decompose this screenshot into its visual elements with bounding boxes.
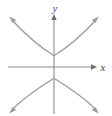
upper-right-branch-arrowhead-icon — [92, 17, 99, 24]
y-axis-label: y — [52, 2, 58, 14]
x-axis-label: x — [100, 61, 106, 73]
x-axis-arrowhead-icon — [91, 64, 97, 69]
lower-right-branch-arrowhead-icon — [92, 107, 99, 114]
graph-canvas: y x — [0, 0, 112, 116]
upper-left-branch-arrowhead-icon — [9, 17, 16, 24]
y-axis-arrowhead-icon — [51, 14, 56, 20]
lower-left-branch-arrowhead-icon — [9, 107, 16, 114]
hyperbola-graph-figure: y x — [0, 0, 112, 116]
